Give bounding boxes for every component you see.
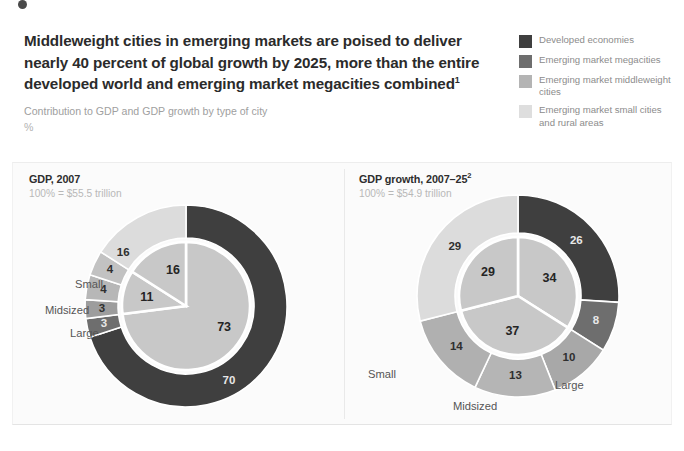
pie-slice-outer: [417, 195, 518, 321]
pie-slice-value: 16: [166, 263, 180, 277]
chart-title: GDP growth, 2007–252: [359, 173, 471, 185]
chart-gdp-2007: GDP, 2007 100% = $55.5 trillion 70334416…: [13, 163, 344, 424]
donut-chart-right: 26810131429343729: [345, 163, 672, 424]
pie-slice-value: 3: [101, 317, 107, 329]
legend-item-small-cities-rural: Emerging market small cities and rural a…: [519, 104, 684, 128]
chart-subtitle: 100% = $55.5 trillion: [29, 188, 122, 199]
pie-slice-value: 26: [570, 234, 583, 246]
pie-slice-inner: [459, 237, 518, 311]
headline-footnote-marker: 1: [455, 75, 460, 85]
pie-slice-value: 8: [593, 314, 600, 326]
pie-slice-value: 4: [107, 263, 114, 275]
units-label: %: [24, 121, 504, 134]
legend-item-developed-economies: Developed economies: [519, 34, 684, 48]
pie-slice-value: 10: [563, 351, 576, 363]
donut-chart-left: 70334416731116: [13, 163, 344, 424]
pie-slice-outer: [85, 300, 119, 319]
pie-slice-inner: [122, 272, 186, 314]
category-label-midsized: Midsized: [453, 400, 497, 412]
pie-slice-value: 14: [450, 340, 463, 352]
legend-item-label: Developed economies: [539, 34, 634, 46]
chart-title: GDP, 2007: [29, 173, 80, 185]
pie-slice-value: 37: [505, 324, 519, 338]
legend-swatch-icon: [519, 75, 532, 88]
charts-panel: GDP, 2007 100% = $55.5 trillion 70334416…: [12, 162, 672, 425]
pie-slice-outer: [420, 312, 491, 388]
legend-swatch-icon: [519, 105, 532, 118]
legend-item-label: Emerging market middleweight cities: [539, 74, 671, 98]
legend-item-label: Emerging market small cities and rural a…: [539, 104, 671, 128]
subtitle: Contribution to GDP and GDP growth by ty…: [24, 104, 504, 118]
category-label-large: Large: [70, 327, 99, 339]
legend-item-megacities: Emerging market megacities: [519, 54, 684, 68]
legend-swatch-icon: [519, 35, 532, 48]
pie-slice-inner: [518, 237, 577, 328]
pie-slice-value: 29: [481, 265, 495, 279]
pie-slice-value: 11: [140, 290, 153, 304]
chart-gdp-growth-2007-25: GDP growth, 2007–252 100% = $54.9 trilli…: [345, 163, 672, 424]
pie-slice-value: 34: [543, 271, 557, 285]
pie-slice-value: 29: [448, 240, 461, 252]
legend-swatch-icon: [519, 55, 532, 68]
header: Middleweight cities in emerging markets …: [24, 30, 504, 134]
pie-slice-value: 3: [99, 302, 105, 314]
category-label-small: Small: [368, 368, 396, 380]
category-label-midsized: Midsized: [45, 304, 89, 316]
page-title: Middleweight cities in emerging markets …: [24, 30, 504, 95]
legend-item-label: Emerging market megacities: [539, 54, 661, 66]
chart-subtitle: 100% = $54.9 trillion: [359, 188, 452, 199]
headline-text: Middleweight cities in emerging markets …: [24, 32, 479, 92]
pie-slice-outer: [475, 353, 555, 397]
pie-slice-inner: [123, 242, 250, 370]
scan-artifact-dot: [18, 0, 27, 9]
pie-slice-outer: [571, 300, 619, 350]
pie-slice-outer: [518, 195, 619, 302]
category-label-large: Large: [555, 379, 584, 391]
pie-slice-value: 16: [117, 246, 130, 258]
pie-slice-inner: [132, 242, 186, 306]
legend: Developed economies Emerging market mega…: [519, 34, 684, 135]
pie-slice-outer: [101, 205, 186, 270]
pie-slice-inner: [461, 296, 568, 355]
legend-item-middleweight-cities: Emerging market middleweight cities: [519, 74, 684, 98]
pie-slice-value: 73: [217, 320, 231, 334]
chart-title-text: GDP growth, 2007–25: [359, 173, 467, 185]
pie-slice-value: 13: [509, 369, 522, 381]
chart-title-footnote-marker: 2: [467, 171, 471, 180]
pie-slice-outer: [90, 205, 287, 407]
pie-slice-value: 70: [223, 374, 236, 386]
category-label-small: Small: [75, 278, 103, 290]
